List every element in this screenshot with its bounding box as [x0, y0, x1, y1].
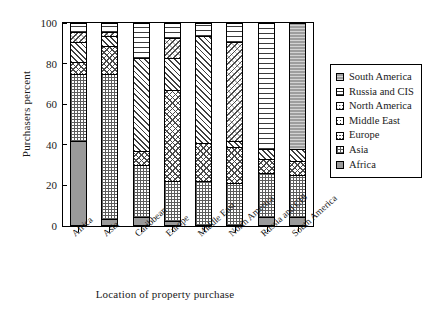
- legend-item[interactable]: Europe: [336, 128, 414, 143]
- bar-segment-russia-and-cis: [196, 24, 211, 36]
- bar-segment-russia-and-cis: [134, 24, 149, 58]
- bar-slot: [188, 23, 219, 226]
- bar-slot: [94, 23, 125, 226]
- bar-slot: [63, 23, 94, 226]
- y-tick-label: 60: [46, 98, 63, 110]
- bar-segment-asia: [165, 181, 180, 221]
- chart-figure: Purchasers percent Location of property …: [0, 0, 442, 313]
- bar-slot: [126, 23, 157, 226]
- bar-africa[interactable]: [70, 23, 87, 226]
- legend-swatch-icon: [336, 102, 344, 110]
- bar-segment-middle-east: [102, 36, 117, 46]
- legend-item[interactable]: Russia and CIS: [336, 85, 414, 100]
- bar-segment-middle-east: [259, 149, 274, 159]
- legend-swatch-icon: [336, 73, 344, 81]
- bar-segment-middle-east: [290, 149, 305, 161]
- legend-item[interactable]: South America: [336, 70, 414, 85]
- bar-segment-russia-and-cis: [259, 24, 274, 149]
- bar-segment-europe: [165, 90, 180, 180]
- bar-segment-africa: [71, 141, 86, 225]
- bar-north-america[interactable]: [226, 23, 243, 226]
- bar-segment-north-america: [165, 38, 180, 58]
- legend-item[interactable]: Middle East: [336, 114, 414, 129]
- bar-segment-europe: [102, 46, 117, 74]
- bar-segment-europe: [290, 161, 305, 175]
- legend-swatch-icon: [336, 161, 344, 169]
- bar-caribbean[interactable]: [133, 23, 150, 226]
- bar-segment-russia-and-cis: [227, 24, 242, 42]
- bar-europe[interactable]: [164, 23, 181, 226]
- bar-middle-east[interactable]: [195, 23, 212, 226]
- bar-segment-north-america: [102, 32, 117, 36]
- legend-item[interactable]: North America: [336, 99, 414, 114]
- legend-label: Russia and CIS: [349, 87, 414, 98]
- legend-label: Asia: [349, 145, 368, 156]
- bar-segment-europe: [259, 159, 274, 173]
- bar-segment-russia-and-cis: [165, 24, 180, 38]
- y-tick-label: 80: [46, 58, 63, 70]
- bar-segment-middle-east: [134, 58, 149, 150]
- bar-segment-europe: [71, 62, 86, 74]
- bar-segment-russia-and-cis: [71, 24, 86, 32]
- legend-swatch-icon: [336, 146, 344, 154]
- legend-swatch-icon: [336, 88, 344, 96]
- bar-segment-north-america: [227, 42, 242, 140]
- bar-slot: [219, 23, 250, 226]
- y-tick-label: 100: [41, 17, 64, 29]
- bar-segment-middle-east: [165, 58, 180, 90]
- y-axis-title: Purchasers percent: [20, 34, 32, 194]
- bar-segment-middle-east: [227, 141, 242, 147]
- bar-segment-middle-east: [196, 36, 211, 143]
- plot-area: 020406080100: [62, 22, 314, 227]
- bar-segment-north-america: [71, 32, 86, 42]
- bar-segment-asia: [134, 165, 149, 217]
- legend-label: Europe: [349, 130, 379, 141]
- stacked-bars: [63, 23, 313, 226]
- y-tick-label: 20: [46, 179, 63, 191]
- bar-slot: [157, 23, 188, 226]
- legend-label: Africa: [349, 160, 376, 171]
- legend: South AmericaRussia and CISNorth America…: [330, 64, 422, 178]
- legend-label: South America: [349, 72, 412, 83]
- bar-segment-asia: [102, 74, 117, 219]
- bar-segment-europe: [227, 147, 242, 183]
- legend-swatch-icon: [336, 132, 344, 140]
- bar-segment-russia-and-cis: [102, 24, 117, 32]
- bar-segment-europe: [196, 143, 211, 181]
- legend-label: Middle East: [349, 116, 400, 127]
- bar-asia[interactable]: [101, 23, 118, 226]
- x-axis-labels: AfricaAsiaCaribbeanEuropeMiddle EastNort…: [62, 231, 314, 291]
- bar-segment-europe: [134, 151, 149, 165]
- legend-item[interactable]: Africa: [336, 158, 414, 173]
- legend-item[interactable]: Asia: [336, 143, 414, 158]
- bar-segment-south-america: [290, 24, 305, 149]
- bar-segment-middle-east: [71, 42, 86, 62]
- bar-segment-asia: [71, 74, 86, 140]
- y-tick-label: 40: [46, 139, 63, 151]
- legend-swatch-icon: [336, 117, 344, 125]
- legend-label: North America: [349, 101, 412, 112]
